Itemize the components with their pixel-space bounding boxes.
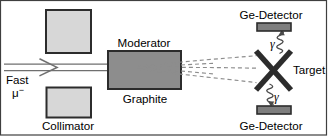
ge-detector-top (257, 23, 291, 31)
ge-detector-bottom-label: Ge-Detector (239, 119, 302, 132)
beam-label-fast: Fast (6, 73, 29, 86)
experiment-schematic-diagram: Fast μ− Collimator Moderator Graphite (0, 0, 328, 138)
moderator-label: Moderator (118, 36, 171, 49)
muon-charge-superscript: − (19, 85, 24, 95)
muon-symbol: μ (12, 86, 19, 99)
collimator-block-lower (47, 88, 92, 118)
graphite-label: Graphite (123, 92, 167, 105)
gamma-label-top: γ (270, 37, 275, 51)
target-label: Target (293, 63, 326, 76)
ge-detector-bottom (257, 106, 291, 114)
figure-container: Fast μ− Collimator Moderator Graphite (0, 0, 328, 138)
collimator-block-upper (46, 10, 91, 53)
gamma-label-bottom: γ (274, 90, 279, 104)
ge-detector-top-label: Ge-Detector (239, 8, 302, 21)
collimator-label: Collimator (42, 119, 94, 132)
